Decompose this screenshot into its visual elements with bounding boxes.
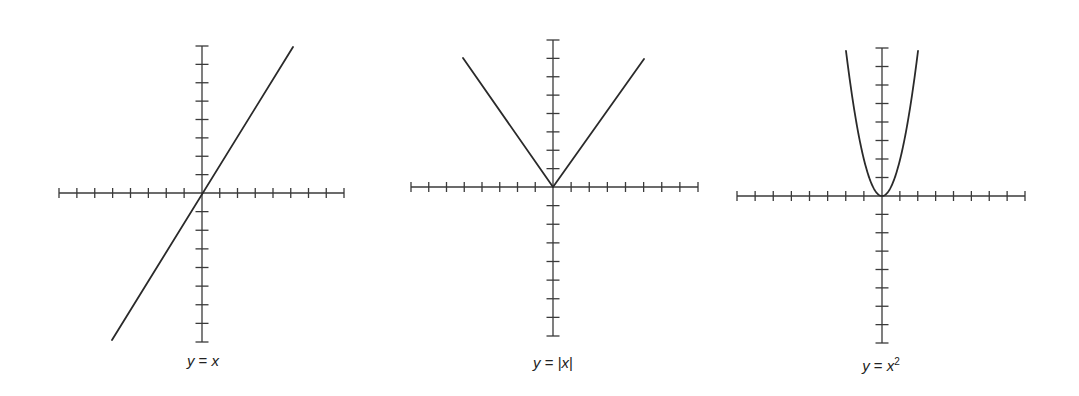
caption-var: y [187,352,195,369]
graph-y-equals-abs-x [411,40,698,336]
coordinate-axes [411,40,698,336]
caption-exponent: 2 [894,356,900,367]
caption-rhs: x [562,354,570,371]
abs-bar-right: | [569,354,573,371]
caption-y-equals-abs-x: y = |x| [533,354,573,371]
function-graphs-figure [0,0,1079,396]
graph-y-equals-x [59,46,344,342]
caption-rhs: x [212,352,220,369]
caption-var: y [862,357,870,374]
caption-equals: = [194,352,211,369]
caption-equals: = [870,357,887,374]
graph-y-equals-x-squared [737,48,1025,343]
caption-rhs: x [887,357,895,374]
caption-equals: = [541,354,558,371]
caption-y-equals-x-squared: y = x2 [862,357,900,374]
caption-var: y [533,354,541,371]
caption-y-equals-x: y = x [187,352,219,369]
